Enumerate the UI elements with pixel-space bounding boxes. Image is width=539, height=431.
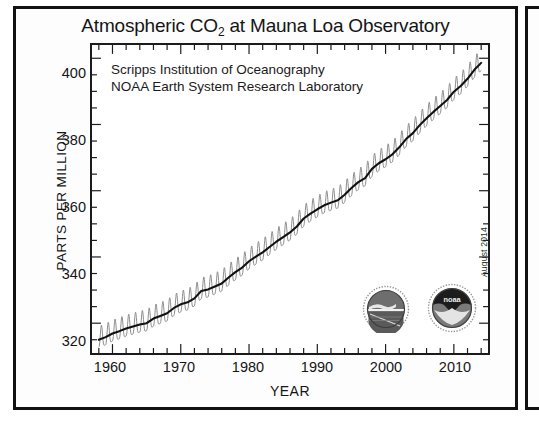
y-tick-320: 320 <box>42 333 86 349</box>
x-tick-1960: 1960 <box>80 359 140 375</box>
x-tick-2000: 2000 <box>356 359 416 375</box>
y-tick-400: 400 <box>42 65 86 81</box>
annotation-line-1: Scripps Institution of Oceanography <box>111 61 363 78</box>
figure-panel: Atmospheric CO2 at Mauna Loa Observatory… <box>13 6 518 410</box>
y-axis-ticks: 400 380 360 340 320 PARTS PER MILLION <box>28 43 86 355</box>
x-tick-1980: 1980 <box>218 359 278 375</box>
page-title: Atmospheric CO2 at Mauna Loa Observatory <box>16 15 515 37</box>
noaa-logo: noaa <box>427 283 477 333</box>
seasonal-cycle-series <box>99 54 481 348</box>
title-text-main: Atmospheric CO <box>81 15 218 36</box>
title-subscript: 2 <box>218 25 224 39</box>
x-tick-1990: 1990 <box>287 359 347 375</box>
noaa-wordmark: noaa <box>443 295 461 304</box>
x-tick-2010: 2010 <box>425 359 485 375</box>
adjacent-panel-edge <box>525 6 539 410</box>
x-axis-ticks: 1960 1970 1980 1990 2000 2010 <box>90 359 490 379</box>
scripps-logo <box>362 285 410 333</box>
y-axis-title: PARTS PER MILLION <box>54 101 69 301</box>
date-stamp: August 2014 <box>479 227 489 277</box>
title-text-rest: at Mauna Loa Observatory <box>224 15 449 36</box>
trend-line-series <box>99 63 481 340</box>
source-annotation: Scripps Institution of Oceanography NOAA… <box>111 61 363 95</box>
x-axis-title: YEAR <box>90 383 490 399</box>
annotation-line-2: NOAA Earth System Research Laboratory <box>111 78 363 95</box>
x-tick-1970: 1970 <box>149 359 209 375</box>
